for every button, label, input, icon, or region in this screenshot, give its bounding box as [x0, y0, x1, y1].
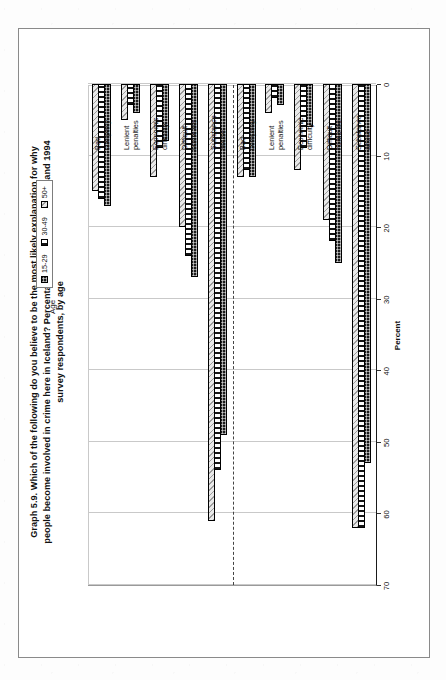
axis-tick-label: 30: [382, 295, 391, 303]
category-label: Difficulthome life: [325, 120, 343, 150]
axis-tick: [377, 299, 381, 300]
legend-box: 15-29 30-49 50+: [36, 180, 53, 288]
bar-15-29: [277, 84, 284, 105]
legend-label: 30-49: [40, 217, 49, 235]
scanned-page: Graph 5.9. Which of the following do you…: [0, 0, 446, 680]
axis-tick-label: 40: [382, 367, 391, 375]
legend-swatch-30-49-icon: [41, 239, 48, 246]
legend-label: 50+: [40, 186, 49, 198]
chart-title-line-2: people become involved in crime here in …: [41, 42, 54, 642]
axis-tick: [377, 585, 381, 586]
bar-15-29: [133, 84, 140, 113]
year-separator-dashed: [233, 85, 234, 585]
axis-tick: [377, 84, 381, 85]
value-axis-title: Percent: [393, 85, 402, 586]
axis-tick-label: 60: [382, 510, 391, 518]
axis-tick: [377, 513, 381, 514]
category-label: Economicdifficulty: [151, 118, 169, 150]
legend-label: 15-29: [40, 255, 49, 273]
axis-tick: [377, 156, 381, 157]
legend-swatch-50-plus-icon: [41, 201, 48, 208]
category-label: Substanceabuse: [354, 115, 372, 150]
axis-tick-label: 50: [382, 439, 391, 447]
plot-area: [88, 85, 377, 586]
plot-top-border: [88, 85, 89, 585]
legend-item[interactable]: 50+: [40, 186, 49, 208]
legend-item[interactable]: 30-49: [40, 217, 49, 245]
legend-item[interactable]: 15-29: [40, 255, 49, 283]
axis-tick-label: 0: [382, 83, 391, 87]
category-label: Lenientpenalties: [122, 120, 140, 150]
chart-title-line-1: Graph 5.9. Which of the following do you…: [28, 42, 41, 642]
legend-swatch-15-29-icon: [41, 276, 48, 283]
axis-tick: [377, 442, 381, 443]
category-label: Substanceabuse: [209, 115, 227, 150]
legend-title: Age: [48, 300, 57, 314]
axis-tick-label: 70: [382, 582, 391, 590]
category-label: Lenientpenalties: [267, 120, 285, 150]
category-label: Difficulthome life: [180, 120, 198, 150]
rotated-chart-canvas: Graph 5.9. Which of the following do you…: [18, 28, 428, 656]
axis-tick: [377, 227, 381, 228]
chart-title-line-3: survey respondents, by age: [54, 42, 67, 642]
category-label: Economicdifficulty: [296, 118, 314, 150]
bar-15-29: [191, 84, 198, 277]
category-label: Badcompany: [93, 120, 111, 150]
bar-15-29: [335, 84, 342, 263]
axis-tick-label: 20: [382, 224, 391, 232]
category-label: Badcompany: [238, 120, 256, 150]
axis-tick-label: 10: [382, 152, 391, 160]
chart-title: Graph 5.9. Which of the following do you…: [28, 42, 67, 642]
axis-tick: [377, 370, 381, 371]
